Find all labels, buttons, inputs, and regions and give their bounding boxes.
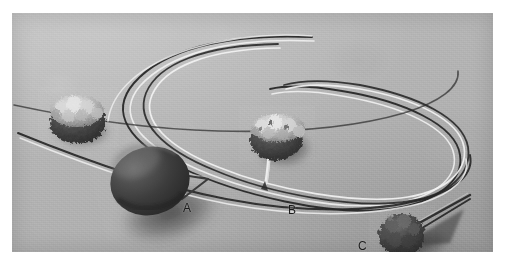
photograph-plate: A B C: [12, 13, 493, 252]
granular-bead-upper-left: [50, 95, 106, 143]
specimen-label-b: B: [288, 204, 296, 216]
specimen-label-a: A: [183, 202, 191, 214]
figure-root: A B C: [0, 0, 506, 265]
specimen-label-c: C: [358, 240, 367, 252]
photo-scene: [12, 13, 493, 252]
